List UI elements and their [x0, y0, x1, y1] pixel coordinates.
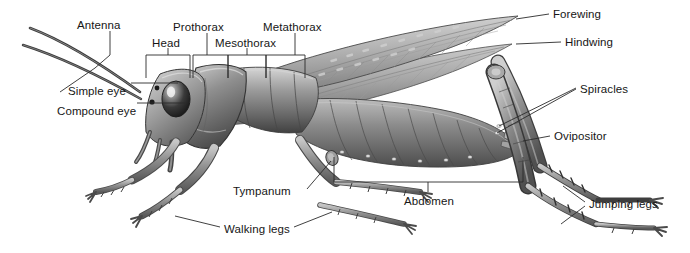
- jumping-legs-leader-1: [563, 186, 585, 202]
- label-metathorax: Metathorax: [263, 22, 322, 34]
- label-mesothorax: Mesothorax: [215, 38, 276, 50]
- leader-lines-group: [60, 14, 585, 227]
- spiracles-leader-2: [497, 89, 576, 133]
- brackets-group: [146, 33, 523, 192]
- head-bracket: [146, 48, 190, 78]
- grasshopper-anatomy-figure: AntennaHeadProthoraxMesothoraxMetathorax…: [0, 0, 690, 253]
- label-antenna: Antenna: [77, 20, 121, 32]
- walking-legs-leader-2: [294, 212, 332, 227]
- label-compound-eye: Compound eye: [57, 106, 136, 118]
- label-jumping-legs: Jumping legs: [589, 199, 658, 211]
- walking-legs-leader-1: [175, 216, 220, 227]
- label-forewing: Forewing: [553, 9, 601, 21]
- label-head: Head: [152, 38, 180, 50]
- spiracles-leader-1: [499, 88, 576, 126]
- label-tympanum: Tympanum: [233, 186, 291, 198]
- label-spiracles: Spiracles: [580, 84, 628, 96]
- ovipositor-leader: [523, 136, 550, 141]
- abdomen-bracket: [334, 157, 523, 192]
- label-ovipositor: Ovipositor: [554, 131, 607, 143]
- forewing-leader: [516, 14, 549, 19]
- antenna-leader: [60, 31, 110, 92]
- label-walking-legs: Walking legs: [224, 224, 290, 236]
- label-abdomen: Abdomen: [404, 196, 454, 208]
- mesothorax-bracket: [228, 48, 266, 78]
- hindwing-leader: [516, 42, 561, 44]
- label-simple-eye: Simple eye: [68, 86, 126, 98]
- label-hindwing: Hindwing: [565, 37, 613, 49]
- tympanum-leader: [307, 161, 331, 189]
- label-prothorax: Prothorax: [173, 22, 224, 34]
- jumping-legs-leader-2: [561, 206, 585, 224]
